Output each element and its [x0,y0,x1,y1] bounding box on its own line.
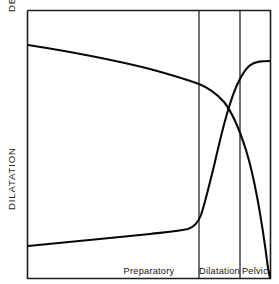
axis-title-descent: DESCENT [6,0,17,12]
labor-curve-figure: DESCENT DILATATION Preparatory Dilatatio… [0,0,279,284]
phase-label-preparatory: Preparatory [124,266,175,276]
phase-label-pelvic: Pelvic [242,266,268,276]
axis-title-dilatation: DILATATION [6,147,17,210]
chart-svg: DESCENT DILATATION Preparatory Dilatatio… [0,0,279,284]
chart-background [0,0,279,284]
phase-label-dilatation: Dilatation [199,266,240,276]
